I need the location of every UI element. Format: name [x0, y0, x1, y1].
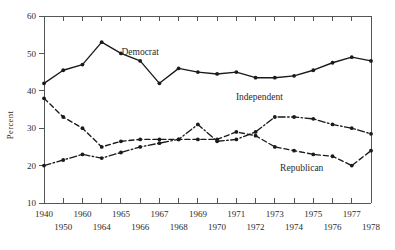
series-annotation-republican: Republican [280, 163, 324, 173]
data-point-marker [158, 138, 162, 142]
data-point-marker [196, 70, 200, 74]
data-point-marker [369, 149, 373, 153]
data-point-marker [119, 139, 123, 143]
data-point-marker [369, 59, 373, 63]
data-point-marker [292, 115, 296, 119]
data-point-marker [273, 145, 277, 149]
y-axis-title: Percent [5, 111, 15, 140]
data-point-marker [196, 123, 200, 127]
series-annotation-independent: Independent [236, 92, 283, 102]
data-point-marker [292, 74, 296, 78]
data-point-marker [273, 76, 277, 80]
data-point-marker [254, 130, 258, 134]
x-tick-label: 1964 [93, 222, 112, 232]
data-point-marker [81, 152, 85, 156]
x-tick-label: 1966 [131, 222, 150, 232]
y-tick-label: 40 [27, 86, 37, 96]
y-tick-label: 60 [27, 11, 37, 21]
x-tick-label: 1940 [35, 209, 54, 219]
x-tick-label: 1960 [73, 209, 92, 219]
data-point-marker [81, 63, 85, 67]
x-tick-label: 1970 [208, 222, 227, 232]
x-tick-label: 1972 [247, 222, 265, 232]
data-point-marker [177, 66, 181, 70]
x-tick-label: 1975 [304, 209, 323, 219]
data-point-marker [138, 138, 142, 142]
x-tick-label: 1976 [324, 222, 343, 232]
data-point-marker [331, 123, 335, 127]
x-tick-label: 1974 [285, 222, 304, 232]
data-point-marker [100, 156, 104, 160]
data-point-marker [42, 164, 46, 168]
data-point-marker [42, 81, 46, 85]
x-tick-label: 1965 [112, 209, 131, 219]
data-point-marker [350, 164, 354, 168]
data-point-marker [158, 141, 162, 145]
data-point-marker [292, 149, 296, 153]
data-point-marker [350, 55, 354, 59]
y-tick-label: 20 [27, 161, 37, 171]
x-tick-label: 1971 [227, 209, 245, 219]
data-point-marker [369, 132, 373, 136]
data-point-marker [61, 158, 65, 162]
x-tick-label: 1969 [189, 209, 208, 219]
data-point-marker [196, 138, 200, 142]
data-point-marker [234, 70, 238, 74]
x-tick-label: 1967 [150, 209, 169, 219]
party-identification-line-chart: 102030405060 194019501960196419651966196… [0, 0, 395, 250]
data-point-marker [215, 72, 219, 76]
data-point-marker [215, 138, 219, 142]
data-point-marker [331, 154, 335, 158]
data-point-marker [61, 115, 65, 119]
data-point-marker [100, 40, 104, 44]
data-point-marker [254, 134, 258, 138]
x-tick-label: 1973 [266, 209, 285, 219]
data-point-marker [311, 68, 315, 72]
x-tick-label: 1978 [362, 222, 381, 232]
data-point-marker [311, 152, 315, 156]
x-tick-label: 1950 [54, 222, 73, 232]
data-point-marker [158, 81, 162, 85]
data-point-marker [311, 117, 315, 121]
data-point-marker [331, 61, 335, 65]
data-point-marker [234, 130, 238, 134]
data-point-marker [234, 138, 238, 142]
chart-container: 102030405060 194019501960196419651966196… [0, 0, 395, 250]
x-tick-label: 1968 [170, 222, 189, 232]
data-point-marker [138, 59, 142, 63]
data-point-marker [81, 126, 85, 130]
y-tick-label: 50 [27, 49, 37, 59]
data-point-marker [273, 115, 277, 119]
data-point-marker [350, 126, 354, 130]
data-point-marker [42, 96, 46, 100]
data-point-marker [138, 145, 142, 149]
y-tick-label: 10 [27, 198, 37, 208]
x-tick-label: 1977 [343, 209, 362, 219]
data-point-marker [254, 76, 258, 80]
series-annotation-democrat: Democrat [121, 47, 159, 57]
data-point-marker [61, 68, 65, 72]
data-point-marker [100, 145, 104, 149]
data-point-marker [119, 151, 123, 155]
data-point-marker [177, 138, 181, 142]
y-tick-label: 30 [27, 123, 37, 133]
